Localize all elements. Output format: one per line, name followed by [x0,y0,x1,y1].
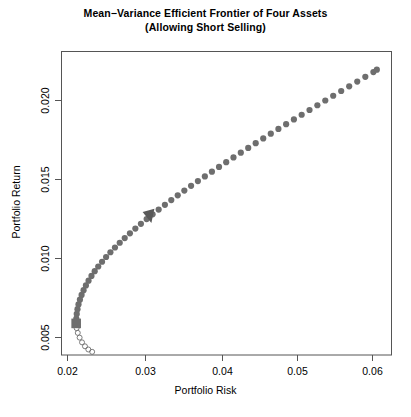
data-point [209,169,215,175]
data-point [216,164,222,170]
data-point [103,254,109,260]
x-tick-labels: 0.02 0.03 0.04 0.05 0.06 [57,365,383,377]
y-axis-title: Portfolio Return [10,142,22,262]
data-point [275,126,281,132]
data-point [175,192,181,198]
data-point [77,335,82,340]
data-point [117,240,123,246]
data-point [260,135,266,141]
data-point [245,145,251,151]
efficient-frontier-points [73,67,380,327]
data-point [346,83,352,89]
data-point [202,173,208,179]
y-tick-label: 0.005 [39,324,51,350]
data-point [168,197,174,203]
data-point [314,102,320,108]
x-tick-label: 0.04 [212,365,233,377]
data-point [99,259,105,265]
data-point [195,178,201,184]
data-point [306,107,312,113]
data-point [354,78,360,84]
data-point [162,202,168,208]
data-point [188,183,194,189]
y-axis-ticks [55,101,61,338]
x-axis-ticks [68,355,373,361]
data-point [291,116,297,122]
data-point [132,225,138,231]
inefficient-frontier-points [74,326,95,355]
plot-area: 0.02 0.03 0.04 0.05 0.06 0.005 0.010 0.0… [0,0,411,417]
data-point [268,131,274,137]
data-point [283,121,289,127]
chart-page: Mean−Variance Efficient Frontier of Four… [0,0,411,417]
x-tick-label: 0.05 [287,365,308,377]
data-point [299,112,305,118]
data-point [223,159,229,165]
data-point [238,150,244,156]
data-point [156,206,162,212]
x-axis-title: Portfolio Risk [0,384,411,396]
data-point [362,74,368,80]
data-point [330,93,336,99]
y-tick-labels: 0.005 0.010 0.015 0.020 [39,87,51,350]
x-tick-label: 0.06 [362,365,383,377]
y-tick-label: 0.020 [39,87,51,113]
plot-frame [62,52,392,356]
x-tick-label: 0.02 [57,365,78,377]
y-tick-label: 0.010 [39,245,51,271]
data-point [107,249,113,255]
data-point [127,230,133,236]
data-point [253,140,259,146]
y-tick-label: 0.015 [39,166,51,192]
data-point [90,349,95,354]
data-point [75,330,80,335]
data-point [138,221,144,227]
data-point [122,235,128,241]
data-point [230,154,236,160]
minimum-variance-portfolio [71,319,81,329]
data-point [322,97,328,103]
efficient-frontier-curve [73,67,380,355]
x-tick-label: 0.03 [135,365,156,377]
data-point [181,188,187,194]
data-point [338,88,344,94]
data-point [374,67,380,73]
data-point [112,244,118,250]
